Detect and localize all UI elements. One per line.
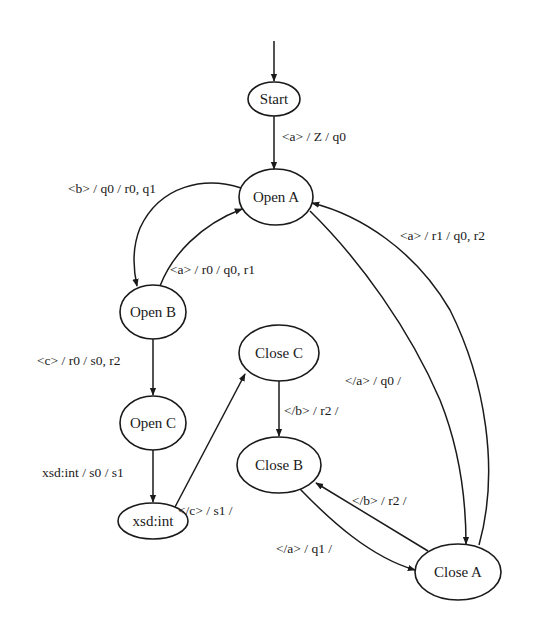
edge-label-close-b-close-a: </a> / q1 / — [276, 541, 332, 556]
state-label: Start — [260, 91, 289, 107]
state-diagram: Start Open A Open B Open C xsd:int Close… — [0, 0, 535, 636]
state-label: Open B — [130, 304, 176, 320]
state-open-b: Open B — [120, 285, 186, 339]
state-label: Close C — [255, 345, 303, 361]
state-close-b: Close B — [237, 437, 321, 493]
edge-label-close-c-close-b: </b> / r2 / — [284, 403, 339, 418]
state-label: Open A — [253, 189, 299, 205]
edge-label-xsd-int-close-c: </c> / s1 / — [178, 503, 233, 518]
edge-label-open-a-open-b: <b> / q0 / r0, q1 — [68, 181, 156, 196]
edge-label-open-b-open-a: <a> / r0 / q0, r1 — [170, 262, 255, 277]
edge-xsd-int-to-close-c — [175, 374, 245, 507]
state-close-a: Close A — [415, 544, 501, 600]
state-label: Open C — [130, 415, 176, 431]
state-open-a: Open A — [239, 169, 313, 225]
edge-label-open-b-open-c: <c> / r0 / s0, r2 — [37, 353, 120, 368]
state-label: Close A — [434, 564, 482, 580]
edge-label-start-open-a: <a> / Z / q0 — [282, 129, 346, 144]
edge-label-close-a-close-b: </b> / r2 / — [352, 493, 407, 508]
state-label: Close B — [255, 457, 303, 473]
edge-label-open-c-xsd-int: xsd:int / s0 / s1 — [42, 465, 124, 480]
state-label: xsd:int — [133, 513, 175, 529]
edge-label-close-a-open-a: <a> / r1 / q0, r2 — [400, 228, 485, 243]
edge-label-open-a-close-a: </a> / q0 / — [345, 373, 401, 388]
state-close-c: Close C — [239, 325, 319, 381]
state-open-c: Open C — [120, 396, 186, 450]
state-start: Start — [248, 82, 300, 116]
